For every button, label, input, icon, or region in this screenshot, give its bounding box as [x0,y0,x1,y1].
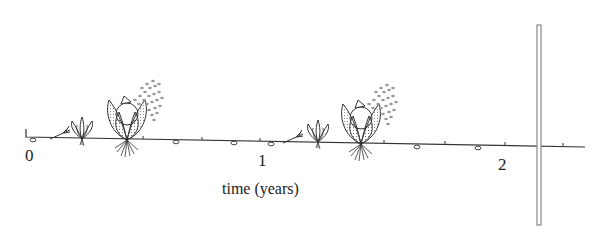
seed-icon [30,138,36,142]
time-axis [26,129,585,147]
vertical-marker-bar [537,25,541,225]
seed-icon [173,140,179,144]
flowering-plant-icon [342,84,398,161]
young-plant-icon [71,117,92,146]
seed-icon [475,146,481,150]
tick-label-1: 1 [258,152,267,169]
seed-icon [231,141,237,145]
tick-label-2: 2 [498,156,507,173]
seed-icon [414,145,420,149]
flowering-plant-icon [108,80,164,157]
seed-icon [268,142,274,146]
axis-title: time (years) [222,181,299,197]
cycle-1 [30,80,237,157]
tick-label-0: 0 [25,147,34,164]
young-plant-icon [307,120,328,149]
diagram-canvas [0,0,605,232]
cycle-2 [268,84,481,161]
seedling-icon [283,130,303,143]
life-cycle-diagram: 0 1 2 time (years) [0,0,605,232]
